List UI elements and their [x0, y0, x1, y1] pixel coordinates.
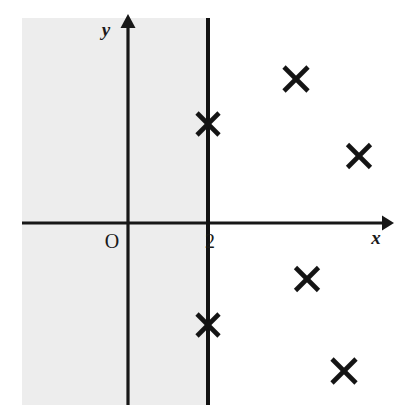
origin-label: O: [105, 230, 119, 252]
x-axis-label: x: [370, 227, 381, 248]
figure-canvas: y x O 2: [0, 0, 412, 420]
shaded-half-plane: [22, 18, 208, 405]
y-axis-label: y: [100, 19, 111, 40]
coordinate-plane-figure: y x O 2: [0, 0, 412, 420]
shaded-half-plane-group: [22, 18, 208, 405]
x-axis-tick-label-2: 2: [205, 230, 215, 252]
